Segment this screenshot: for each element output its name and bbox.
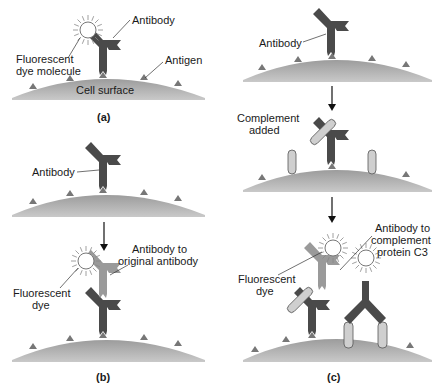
panel-label-b: (b) [96, 371, 110, 383]
antigen-icon [140, 74, 148, 80]
label-dye-line1: Fluorescent [16, 53, 73, 65]
cell-surface [243, 60, 432, 82]
antigen-icon [140, 189, 148, 195]
label-anti-antibody-line1: Antibody to [132, 243, 187, 255]
anti-c3-antibody-icon [344, 281, 386, 324]
antigen-icon [174, 340, 182, 346]
label-dye-line1: Fluorescent [238, 273, 295, 285]
complement-protein-icon [288, 150, 296, 174]
antigen-icon [282, 336, 290, 342]
panel-c: Antibody Complement added [237, 8, 432, 383]
antigen-icon [174, 195, 182, 201]
antigen-icon [402, 61, 410, 67]
antigen-icon [66, 190, 74, 196]
antigen-icon [294, 56, 302, 62]
label-complement-line2: added [249, 124, 280, 136]
label-cell-surface: Cell surface [76, 84, 134, 96]
cell-surface [243, 170, 432, 192]
antigen-icon [406, 342, 414, 348]
label-anti-c3-line3: protein C3 [377, 246, 428, 258]
label-complement-line1: Complement [237, 112, 299, 124]
label-antibody: Antibody [259, 37, 302, 49]
immunofluorescence-diagram: Antibody Fluorescent dye molecule Antige… [0, 0, 446, 389]
label-dye-line2: dye [256, 285, 274, 297]
antigen-icon [402, 171, 410, 177]
antibody-icon [294, 287, 330, 335]
complement-protein-icon [378, 322, 387, 348]
antigen-icon [251, 346, 259, 352]
antibody-icon [313, 8, 349, 56]
complement-protein-icon [368, 150, 376, 174]
label-anti-antibody-line2: original antibody [118, 255, 199, 267]
antigen-icon [29, 83, 37, 89]
label-dye-line2: dye molecule [16, 65, 81, 77]
antigen-icon [258, 174, 266, 180]
antigen-icon [140, 334, 148, 340]
label-dye-line2: dye [32, 299, 50, 311]
antibody-icon [85, 287, 121, 335]
panel-label-a: (a) [97, 111, 111, 123]
fluorescent-dye-icon [73, 15, 103, 45]
label-antibody: Antibody [32, 166, 75, 178]
antigen-icon [29, 343, 37, 349]
antigen-icon [368, 55, 376, 61]
panel-b: Antibody Antibody to original antibody F… [12, 142, 205, 383]
complement-protein-icon [344, 322, 353, 348]
antigen-icon [328, 163, 336, 169]
antibody-icon [85, 142, 121, 190]
fluorescent-dye-icon [71, 246, 101, 276]
antigen-icon [174, 80, 182, 86]
antigen-icon [66, 335, 74, 341]
label-antibody: Antibody [132, 14, 175, 26]
label-antigen: Antigen [165, 54, 202, 66]
panel-a: Antibody Fluorescent dye molecule Antige… [12, 14, 205, 123]
antigen-icon [29, 198, 37, 204]
fluorescent-dye-icon [318, 233, 348, 263]
antigen-icon [258, 64, 266, 70]
label-dye-line1: Fluorescent [13, 287, 70, 299]
cell-surface [243, 339, 432, 362]
label-anti-c3-line2: complement [371, 234, 431, 246]
label-anti-c3-line1: Antibody to [375, 222, 430, 234]
panel-label-c: (c) [327, 371, 341, 383]
